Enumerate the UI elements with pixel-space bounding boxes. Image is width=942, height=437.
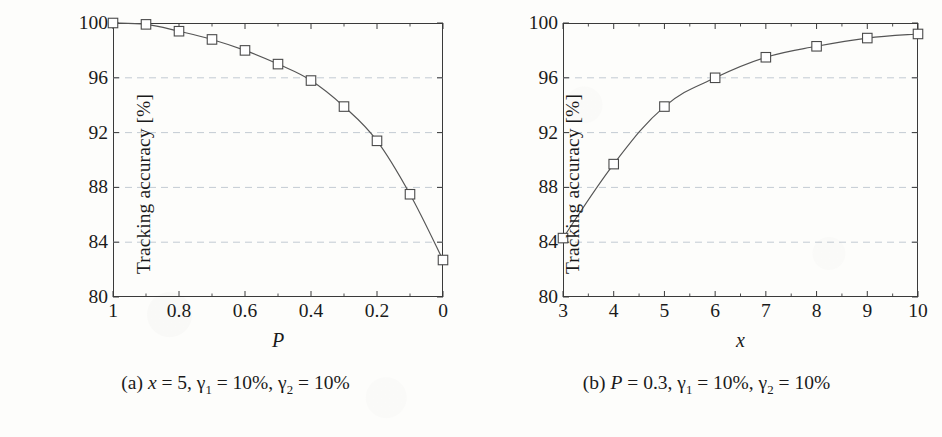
caption-var1-value-a: = 5, — [161, 372, 192, 393]
caption-gamma1-a: γ1 — [197, 372, 212, 393]
caption-var1-b: P — [610, 372, 622, 393]
x-tick-label: 7 — [761, 301, 771, 321]
x-tick-label: 5 — [660, 301, 670, 321]
x-axis-title-b: x — [563, 329, 918, 352]
plot-area-a: Tracking accuracy [%] P 808488929610010.… — [113, 23, 443, 297]
figure-panel-b: Tracking accuracy [%] x 8084889296100345… — [471, 0, 942, 437]
data-point-marker — [761, 53, 771, 63]
data-point-marker — [141, 20, 151, 30]
data-point-marker — [710, 73, 720, 83]
x-tick-label: 9 — [862, 301, 872, 321]
data-point-marker — [913, 29, 923, 39]
x-tick-label: 0 — [438, 301, 448, 321]
data-point-marker — [240, 46, 250, 56]
plot-area-b: Tracking accuracy [%] x 8084889296100345… — [563, 23, 918, 297]
data-point-marker — [812, 42, 822, 52]
y-tick-label: 84 — [89, 232, 109, 252]
caption-var1-a: x — [148, 372, 157, 393]
y-tick-label: 100 — [529, 13, 558, 33]
data-series-line — [113, 23, 443, 260]
x-axis-title-a: P — [113, 329, 443, 352]
x-tick-label: 10 — [908, 301, 928, 321]
data-point-marker — [207, 35, 217, 45]
data-point-marker — [438, 255, 448, 265]
caption-gamma2-value-b: = 10% — [779, 372, 831, 393]
caption-gamma1-value-a: = 10%, — [217, 372, 274, 393]
caption-prefix-b: (b) — [583, 372, 606, 393]
y-tick-label: 80 — [89, 287, 109, 307]
caption-var1-value-b: = 0.3, — [627, 372, 672, 393]
data-point-marker — [405, 190, 415, 200]
caption-gamma2-value-a: = 10% — [298, 372, 350, 393]
x-tick-label: 0.2 — [365, 301, 389, 321]
y-axis-title-b: Tracking accuracy [%] — [562, 59, 584, 309]
caption-gamma2-a: γ2 — [278, 372, 293, 393]
x-tick-label: 3 — [558, 301, 568, 321]
panel-caption-b: (b) P = 0.3, γ1 = 10%, γ2 = 10% — [471, 372, 942, 398]
caption-gamma1-b: γ1 — [677, 372, 692, 393]
x-tick-label: 0.6 — [233, 301, 257, 321]
x-tick-label: 0.8 — [167, 301, 191, 321]
y-tick-label: 88 — [89, 177, 109, 197]
y-tick-label: 96 — [89, 68, 109, 88]
x-tick-label: 4 — [609, 301, 619, 321]
data-point-marker — [863, 33, 873, 43]
caption-gamma1-value-b: = 10%, — [697, 372, 754, 393]
data-point-marker — [174, 26, 184, 36]
y-tick-label: 88 — [539, 177, 559, 197]
x-tick-label: 8 — [812, 301, 822, 321]
data-series-line — [563, 34, 918, 238]
data-point-marker — [339, 102, 349, 112]
data-point-marker — [306, 76, 316, 86]
caption-prefix-a: (a) — [121, 372, 143, 393]
y-tick-label: 92 — [539, 123, 559, 143]
data-point-marker — [273, 59, 283, 69]
y-tick-label: 100 — [79, 13, 108, 33]
x-tick-label: 1 — [108, 301, 118, 321]
figure-page: Tracking accuracy [%] P 808488929610010.… — [0, 0, 942, 437]
caption-gamma2-b: γ2 — [759, 372, 774, 393]
data-point-marker — [108, 18, 118, 28]
plot-canvas-b — [563, 23, 918, 297]
data-point-marker — [660, 102, 670, 112]
y-axis-title-a: Tracking accuracy [%] — [133, 59, 155, 309]
y-tick-label: 96 — [539, 68, 559, 88]
y-tick-label: 92 — [89, 123, 109, 143]
y-tick-label: 80 — [539, 287, 559, 307]
x-tick-label: 6 — [710, 301, 720, 321]
data-point-marker — [372, 136, 382, 146]
y-tick-label: 84 — [539, 232, 559, 252]
figure-panel-a: Tracking accuracy [%] P 808488929610010.… — [0, 0, 471, 437]
plot-canvas-a — [113, 23, 443, 297]
panel-caption-a: (a) x = 5, γ1 = 10%, γ2 = 10% — [0, 372, 471, 398]
data-point-marker — [609, 159, 619, 169]
x-tick-label: 0.4 — [299, 301, 323, 321]
